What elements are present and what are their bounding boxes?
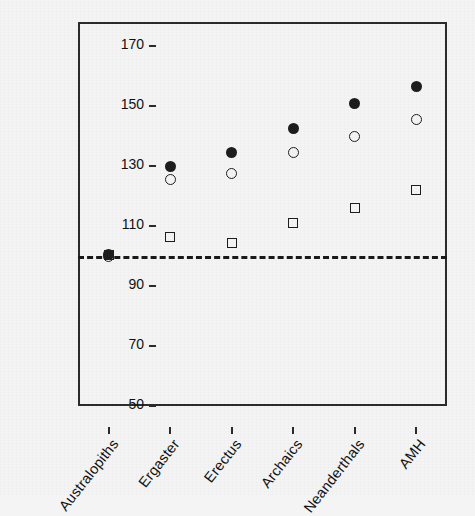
data-point-open-square — [411, 185, 421, 195]
y-tick-mark — [149, 105, 156, 107]
data-point-open-circle — [165, 174, 176, 185]
x-tick-label: Archaics — [258, 436, 306, 491]
data-point-open-circle — [288, 147, 299, 158]
y-axis-title: Total time budget (%) — [14, 0, 44, 52]
data-point-filled-circle — [288, 123, 299, 134]
reference-line — [78, 256, 447, 259]
x-tick-label: Australopiths — [56, 436, 122, 514]
y-tick-mark — [149, 285, 156, 287]
data-point-open-circle — [226, 168, 237, 179]
x-tick-label: Erectus — [201, 436, 245, 486]
data-point-open-circle — [349, 131, 360, 142]
data-point-open-circle — [411, 114, 422, 125]
y-tick-label: 70 — [128, 336, 144, 352]
data-point-open-square — [350, 203, 360, 213]
x-tick-label: Ergaster — [136, 436, 183, 490]
plot-area: 507090110130150170 AustralopithsErgaster… — [78, 22, 447, 406]
data-point-open-square — [104, 250, 114, 260]
data-point-open-square — [165, 232, 175, 242]
x-tick-label: AMH — [396, 436, 429, 472]
x-tick-mark — [169, 427, 171, 434]
x-tick-mark — [415, 427, 417, 434]
y-tick-mark — [149, 345, 156, 347]
x-tick-mark — [231, 427, 233, 434]
data-point-filled-circle — [165, 161, 176, 172]
y-tick-label: 170 — [121, 36, 144, 52]
data-point-open-square — [227, 238, 237, 248]
x-tick-label: Neanderthals — [300, 436, 367, 516]
y-tick-mark — [149, 165, 156, 167]
y-tick-mark — [149, 225, 156, 227]
x-tick-mark — [108, 427, 110, 434]
data-point-filled-circle — [226, 147, 237, 158]
y-tick-mark — [149, 405, 156, 407]
data-point-filled-circle — [411, 81, 422, 92]
data-point-filled-circle — [349, 98, 360, 109]
y-tick-label: 90 — [128, 276, 144, 292]
x-tick-mark — [354, 427, 356, 434]
y-tick-label: 110 — [122, 216, 144, 232]
y-tick-label: 150 — [121, 96, 144, 112]
y-tick-mark — [149, 45, 156, 47]
x-tick-mark — [292, 427, 294, 434]
y-tick-label: 50 — [128, 396, 144, 412]
y-tick-label: 130 — [121, 156, 144, 172]
data-point-open-square — [288, 218, 298, 228]
